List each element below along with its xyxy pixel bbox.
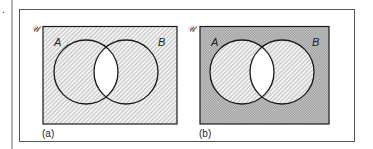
set-b-label: B <box>158 36 165 48</box>
set-a-label: A <box>210 36 218 48</box>
set-a-label: A <box>53 36 61 48</box>
venn-figure: . 𝒰 A B (a) 𝒰 A B (b) <box>0 0 373 149</box>
venn-panel-a: 𝒰 A B (a) <box>31 24 177 139</box>
venn-panel-b: 𝒰 A B (b) <box>187 24 329 139</box>
set-b-label: B <box>312 36 319 48</box>
margin-mark: . <box>2 4 5 15</box>
panel-caption: (a) <box>42 128 54 139</box>
panel-caption: (b) <box>199 128 211 139</box>
